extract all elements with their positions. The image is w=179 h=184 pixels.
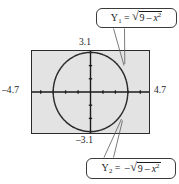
callout-y1: Y1 = √ 9 – x2	[96, 8, 177, 28]
y1-radicand: 9 – x2	[139, 11, 162, 24]
y2-radicand-minus: –	[143, 163, 152, 174]
y1-subscript: 1	[118, 17, 121, 24]
y1-name: Y	[111, 12, 118, 23]
x-min-label: –4.7	[2, 86, 19, 96]
y2-radical: √ 9 – x2	[130, 162, 160, 175]
y1-equals: =	[121, 12, 132, 23]
y-min-label: –3.1	[76, 136, 93, 146]
equation-y1: Y1 = √ 9 – x2	[111, 12, 163, 25]
y2-sign: –	[123, 162, 131, 173]
callout-y2: Y2 = – √ 9 – x2	[86, 158, 176, 179]
y2-radicand: 9 – x2	[137, 162, 160, 175]
x-max-label: 4.7	[154, 86, 166, 96]
circle-graph-figure: 3.1 –3.1 –4.7 4.7 Y1 = √ 9 – x2 Y2 = – √	[0, 0, 179, 184]
y2-equals: =	[112, 162, 123, 173]
y2-name: Y	[101, 162, 108, 173]
leader-line-y2	[104, 119, 123, 158]
y2-subscript: 2	[109, 167, 112, 174]
leader-line-y1	[114, 29, 125, 66]
y-max-label: 3.1	[79, 38, 91, 48]
radical-sign-icon: √	[130, 162, 137, 172]
equation-y2: Y2 = – √ 9 – x2	[101, 162, 160, 175]
radical-sign-icon: √	[132, 11, 139, 21]
y1-radicand-exp: 2	[158, 9, 161, 20]
y2-radicand-exp: 2	[156, 160, 159, 171]
y1-radical: √ 9 – x2	[132, 12, 162, 25]
